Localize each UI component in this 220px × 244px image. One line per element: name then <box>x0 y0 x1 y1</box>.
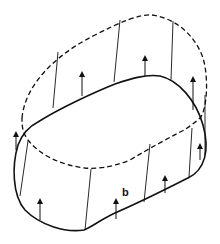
burgers-vector-arrows <box>16 58 200 220</box>
connector-line <box>144 144 150 202</box>
dislocation-loop-diagram <box>0 0 220 244</box>
connector-line <box>20 141 28 196</box>
connector-line <box>114 20 120 82</box>
connector-line <box>85 169 91 230</box>
displaced-loop-dashed <box>22 15 207 168</box>
connector-line <box>189 128 192 177</box>
burgers-vector-label: b <box>122 186 129 198</box>
connector-line <box>171 21 173 80</box>
connector-lines <box>20 20 205 230</box>
